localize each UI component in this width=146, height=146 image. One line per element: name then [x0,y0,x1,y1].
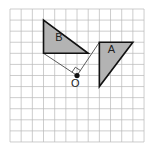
rotation-diagram: B A O [0,0,146,146]
right-angle-marker [72,67,80,72]
center-o-label: O [71,77,80,89]
triangle-b-label: B [55,31,62,43]
triangle-a-label: A [108,43,116,55]
